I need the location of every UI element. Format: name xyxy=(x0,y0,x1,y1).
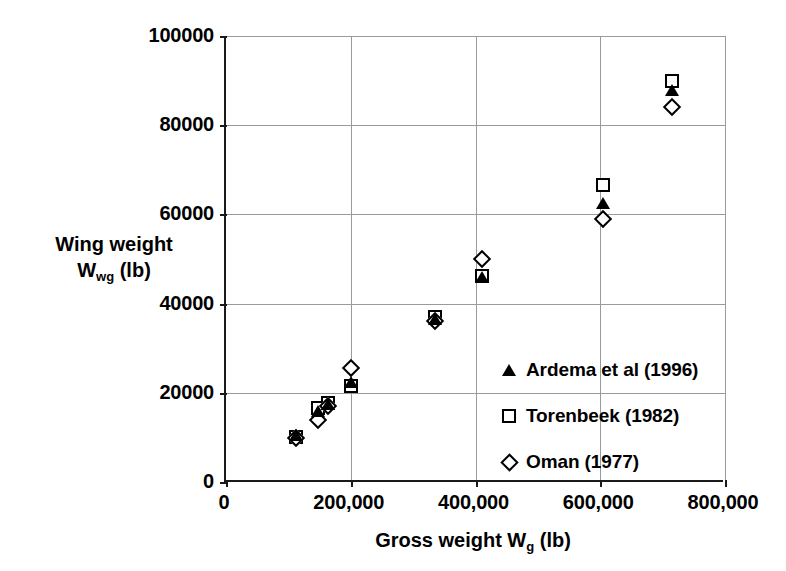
filled-triangle-icon xyxy=(289,429,303,441)
legend-marker xyxy=(498,359,520,381)
data-point xyxy=(289,429,303,441)
legend-label: Oman (1977) xyxy=(526,451,639,473)
filled-triangle-icon xyxy=(665,84,679,96)
legend-label: Ardema et al (1996) xyxy=(526,359,698,381)
x-axis-tick-label: 200,000 xyxy=(313,491,384,513)
y-axis-title-line1: Wing weight xyxy=(55,233,173,255)
filled-triangle-icon xyxy=(475,271,489,283)
open-diamond-icon xyxy=(500,453,518,471)
y-axis-title-unit: (lb) xyxy=(114,259,151,281)
y-axis-tick-label: 0 xyxy=(203,471,214,491)
legend-item: Ardema et al (1996) xyxy=(498,347,698,393)
data-point xyxy=(596,178,610,192)
filled-triangle-icon xyxy=(344,376,358,388)
y-axis-tick xyxy=(220,214,227,216)
x-axis-title-main: Gross weight W xyxy=(375,529,526,551)
x-axis-title-unit: (lb) xyxy=(534,529,571,551)
x-axis-tick xyxy=(226,480,228,487)
x-axis-tick-label: 0 xyxy=(219,491,230,513)
y-axis-tick-label: 80000 xyxy=(159,114,214,134)
scatter-chart: Wing weight Wwg (lb) Gross weight Wg (lb… xyxy=(0,0,786,571)
filled-triangle-icon xyxy=(321,398,335,410)
y-axis-tick xyxy=(220,36,227,38)
legend-marker xyxy=(498,451,520,473)
legend-item: Oman (1977) xyxy=(498,439,698,485)
x-axis-tick-label: 600,000 xyxy=(563,491,634,513)
legend-item: Torenbeek (1982) xyxy=(498,393,698,439)
open-square-icon xyxy=(502,409,516,423)
data-point xyxy=(665,101,678,114)
y-axis-tick xyxy=(220,304,227,306)
open-square-icon xyxy=(596,178,610,192)
data-point xyxy=(475,253,488,266)
data-point xyxy=(596,197,610,209)
y-axis-tick-label: 40000 xyxy=(159,293,214,313)
x-axis-title: Gross weight Wg (lb) xyxy=(243,530,703,550)
open-diamond-icon xyxy=(663,98,681,116)
x-axis-tick-label: 400,000 xyxy=(438,491,509,513)
data-point xyxy=(321,398,335,410)
gridline-vertical xyxy=(351,36,352,482)
gridline-vertical xyxy=(725,36,726,482)
x-axis-tick xyxy=(476,480,478,487)
x-axis-tick-label: 800,000 xyxy=(688,491,759,513)
y-axis-title-subscript: wg xyxy=(96,269,114,284)
y-axis-tick xyxy=(220,125,227,127)
legend-marker xyxy=(498,405,520,427)
filled-triangle-icon xyxy=(596,197,610,209)
legend-label: Torenbeek (1982) xyxy=(526,405,679,427)
y-axis-tick-label: 60000 xyxy=(159,203,214,223)
data-point xyxy=(428,313,442,325)
filled-triangle-icon xyxy=(428,313,442,325)
y-axis-tick-label: 20000 xyxy=(159,382,214,402)
open-diamond-icon xyxy=(473,250,491,268)
filled-triangle-icon xyxy=(502,364,516,376)
data-point xyxy=(344,376,358,388)
y-axis-tick-label: 100000 xyxy=(148,25,214,45)
x-axis-title-subscript: g xyxy=(526,539,534,554)
y-axis-tick xyxy=(220,393,227,395)
open-diamond-icon xyxy=(594,210,612,228)
data-point xyxy=(475,271,489,283)
y-axis-title-symbol: W xyxy=(77,259,96,281)
data-point xyxy=(344,362,357,375)
x-axis-tick xyxy=(725,480,727,487)
data-point xyxy=(665,84,679,96)
x-axis-tick xyxy=(351,480,353,487)
chart-legend: Ardema et al (1996)Torenbeek (1982)Oman … xyxy=(498,347,698,485)
data-point xyxy=(597,212,610,225)
y-axis-title: Wing weight Wwg (lb) xyxy=(24,232,204,283)
